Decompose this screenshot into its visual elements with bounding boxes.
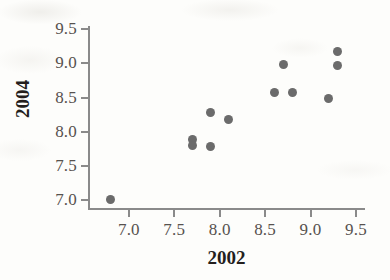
- x-axis-title: 2002: [88, 247, 365, 269]
- y-tick-mark: [81, 165, 88, 167]
- y-tick-label: 7.0: [55, 190, 77, 210]
- data-point: [333, 47, 342, 56]
- x-tick-mark: [310, 210, 312, 217]
- y-tick-label: 7.5: [55, 156, 77, 176]
- data-point: [188, 141, 197, 150]
- x-tick-label: 8.0: [209, 220, 231, 240]
- y-tick-label: 9.5: [55, 19, 77, 39]
- data-point: [206, 108, 215, 117]
- x-tick-label: 9.5: [345, 220, 367, 240]
- x-tick-label: 8.5: [254, 220, 276, 240]
- scatter-plot-figure: 7.07.58.08.59.09.5 7.07.58.08.59.09.5 20…: [0, 0, 390, 280]
- data-point: [288, 88, 297, 97]
- y-tick-mark: [81, 62, 88, 64]
- y-tick-mark: [81, 28, 88, 30]
- y-axis-spine: [88, 26, 90, 210]
- y-axis-title: 2004: [12, 80, 34, 118]
- x-tick-mark: [173, 210, 175, 217]
- data-point: [333, 61, 342, 70]
- x-tick-label: 7.0: [118, 220, 140, 240]
- data-point: [324, 94, 333, 103]
- x-tick-label: 9.0: [300, 220, 322, 240]
- y-tick-mark: [81, 199, 88, 201]
- x-tick-mark: [219, 210, 221, 217]
- y-tick-mark: [81, 131, 88, 133]
- y-tick-label: 8.5: [55, 88, 77, 108]
- x-tick-mark: [128, 210, 130, 217]
- x-tick-label: 7.5: [163, 220, 185, 240]
- data-point: [224, 115, 233, 124]
- plot-area: 7.07.58.08.59.09.5 7.07.58.08.59.09.5: [88, 26, 365, 210]
- x-tick-mark: [355, 210, 357, 217]
- y-tick-label: 8.0: [55, 122, 77, 142]
- x-tick-mark: [264, 210, 266, 217]
- data-point: [279, 60, 288, 69]
- y-tick-label: 9.0: [55, 53, 77, 73]
- data-point: [270, 88, 279, 97]
- data-point: [206, 142, 215, 151]
- data-point: [106, 195, 115, 204]
- y-tick-mark: [81, 97, 88, 99]
